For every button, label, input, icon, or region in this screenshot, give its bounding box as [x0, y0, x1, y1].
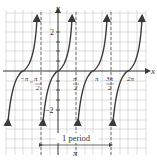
x-axis-label: x	[150, 66, 155, 76]
branch-1	[8, 18, 37, 122]
y-tick-neg-2: −2	[45, 106, 54, 115]
x-tick-3pi-2-num: 3π	[105, 75, 114, 83]
x-tick-pi-2-den: 2	[74, 84, 78, 92]
branch-3	[78, 18, 107, 122]
x-tick-2pi: 2π	[127, 75, 135, 83]
x-tick-3pi-2-den: 2	[108, 84, 112, 92]
period-label: 1 period	[62, 133, 91, 143]
period-value: π	[73, 148, 78, 158]
x-tick-neg-pi: −π	[20, 75, 29, 83]
tangent-curves	[8, 18, 142, 122]
x-tick-pi: π	[95, 75, 99, 83]
branch-4	[113, 18, 142, 122]
y-axis-label: y	[55, 3, 60, 13]
x-tick-pi-2-num: π	[73, 75, 77, 83]
x-tick-neg-pi-2-num: π	[34, 75, 38, 83]
y-tick-2: 2	[50, 28, 54, 37]
tangent-graph: y x 2 −2 −π π 2 π 2 π 3π 2 2π 1 period π	[0, 0, 157, 166]
x-tick-neg-pi-2-den: 2	[36, 84, 40, 92]
